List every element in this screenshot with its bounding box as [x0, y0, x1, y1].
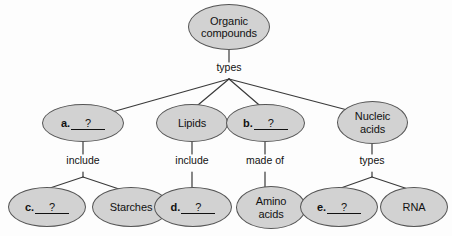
node-label: Nucleic acids [355, 110, 390, 135]
edge-label-b-made-of: made of [246, 154, 284, 166]
blank-underline: ? [254, 116, 288, 130]
node-organic-compounds[interactable]: Organic compounds [188, 4, 270, 50]
fill-in-blank: e. ? [317, 200, 361, 214]
question-mark: ? [327, 202, 361, 213]
blank-underline: ? [71, 116, 105, 130]
node-b-blank[interactable]: b. ? [226, 104, 305, 142]
node-a-blank[interactable]: a. ? [42, 104, 124, 142]
blank-underline: ? [181, 200, 215, 214]
question-mark: ? [254, 118, 288, 129]
question-mark: ? [181, 202, 215, 213]
blank-underline: ? [35, 200, 69, 214]
node-rna[interactable]: RNA [380, 187, 448, 227]
node-amino-acids[interactable]: Amino acids [236, 186, 306, 229]
node-e-blank[interactable]: e. ? [300, 187, 378, 227]
node-label: Starches [110, 201, 153, 213]
question-mark: ? [35, 202, 69, 213]
node-label: Amino acids [256, 195, 287, 220]
question-mark: ? [71, 118, 105, 129]
node-label: RNA [403, 201, 426, 213]
node-label: Organic compounds [201, 15, 257, 40]
blank-underline: ? [327, 200, 361, 214]
node-d-blank[interactable]: d. ? [154, 187, 232, 227]
node-c-blank[interactable]: c. ? [8, 187, 86, 227]
blank-letter: a. [61, 118, 70, 130]
node-label: Lipids [178, 117, 206, 129]
node-lipids[interactable]: Lipids [156, 104, 228, 142]
node-nucleic-acids[interactable]: Nucleic acids [337, 101, 408, 144]
fill-in-blank: c. ? [25, 200, 69, 214]
concept-map-diagram: Organic compounds types a. ? Lipids b. ?… [0, 0, 452, 236]
blank-letter: c. [25, 202, 34, 214]
fill-in-blank: b. ? [243, 116, 288, 130]
blank-letter: d. [171, 202, 181, 214]
blank-letter: e. [317, 202, 326, 214]
fill-in-blank: d. ? [171, 200, 216, 214]
edge-label-a-include: include [66, 154, 99, 166]
blank-letter: b. [243, 118, 253, 130]
edge-label-root-types: types [216, 61, 241, 73]
edge-label-lipids-include: include [175, 154, 208, 166]
edge-label-nucleic-types: types [359, 154, 384, 166]
fill-in-blank: a. ? [61, 116, 105, 130]
